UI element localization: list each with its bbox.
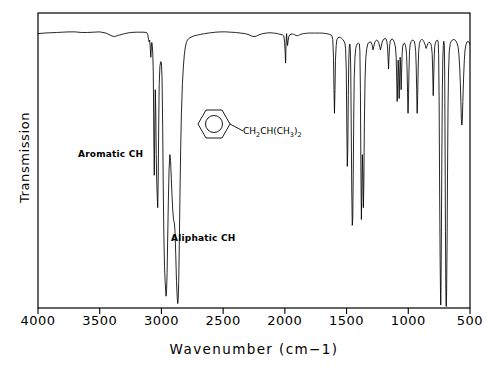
aliphatic-ch-label: Aliphatic CH — [171, 233, 235, 243]
x-tick-label-3000: 3000 — [131, 313, 191, 328]
x-axis-label: Wavenumber (cm−1) — [38, 341, 470, 357]
x-tick-label-2000: 2000 — [255, 313, 315, 328]
x-tick-label-1000: 1000 — [378, 313, 438, 328]
x-tick-label-4000: 4000 — [8, 313, 68, 328]
aromatic-ch-label: Aromatic CH — [78, 149, 143, 159]
y-axis-label: Transmission — [17, 38, 32, 278]
x-tick-label-2500: 2500 — [193, 313, 253, 328]
x-tick-label-1500: 1500 — [317, 313, 377, 328]
x-tick-label-500: 500 — [440, 313, 487, 328]
structure-formula-label: CH2CH(CH3)2 — [243, 126, 302, 139]
x-tick-label-3500: 3500 — [70, 313, 130, 328]
